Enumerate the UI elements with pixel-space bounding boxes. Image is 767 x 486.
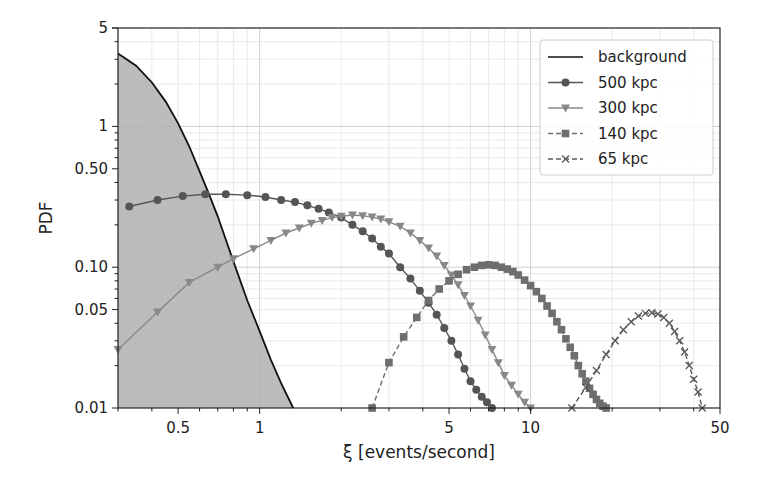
background-fill-area: [118, 53, 293, 408]
circle-marker: [454, 350, 462, 358]
circle-marker: [377, 243, 385, 251]
square-marker: [435, 285, 443, 293]
circle-marker: [440, 324, 448, 332]
square-marker: [400, 333, 408, 341]
square-marker: [562, 130, 570, 138]
x-axis-label: ξ [events/second]: [343, 442, 495, 462]
pdf-chart: 0.51510500.010.050.100.5015 ξ [events/se…: [0, 0, 767, 486]
square-marker: [578, 370, 586, 378]
y-tick-label: 0.50: [75, 160, 108, 178]
legend-label: background: [598, 48, 687, 66]
circle-marker: [125, 202, 133, 210]
circle-marker: [222, 190, 230, 198]
square-marker: [478, 262, 486, 270]
triangle-marker: [454, 281, 463, 289]
circle-marker: [277, 196, 285, 204]
legend-label: 65 kpc: [598, 150, 648, 168]
square-marker: [562, 335, 570, 343]
x-marker: [593, 367, 600, 374]
circle-marker: [416, 287, 424, 295]
y-tick-label: 0.01: [75, 399, 108, 417]
y-tick-label: 1: [98, 117, 108, 135]
y-tick-label: 0.10: [75, 258, 108, 276]
legend-label: 500 kpc: [598, 74, 658, 92]
x-marker: [671, 328, 678, 335]
circle-marker: [303, 201, 311, 209]
square-marker: [454, 271, 462, 279]
x-marker: [681, 348, 688, 355]
legend-label: 140 kpc: [598, 125, 658, 143]
square-marker: [575, 362, 583, 370]
legend: background500 kpc300 kpc140 kpc65 kpc: [540, 40, 713, 175]
circle-marker: [359, 227, 367, 235]
x-tick-label: 5: [444, 419, 454, 437]
circle-marker: [447, 337, 455, 345]
square-marker: [566, 343, 574, 351]
square-marker: [533, 288, 541, 296]
circle-marker: [472, 386, 480, 394]
circle-marker: [154, 196, 162, 204]
square-marker: [445, 277, 453, 285]
circle-marker: [460, 365, 468, 373]
circle-marker: [243, 191, 251, 199]
x-marker: [635, 313, 642, 320]
triangle-marker: [281, 229, 290, 237]
square-marker: [558, 326, 566, 334]
square-marker: [471, 263, 479, 271]
square-marker: [543, 302, 551, 310]
square-marker: [463, 266, 471, 274]
square-marker: [553, 318, 561, 326]
x-marker: [620, 326, 627, 333]
y-tick-label: 0.05: [75, 301, 108, 319]
y-axis-label: PDF: [36, 201, 56, 234]
y-tick-label: 5: [98, 19, 108, 37]
circle-marker: [348, 221, 356, 229]
square-marker: [538, 295, 546, 303]
triangle-marker: [396, 223, 405, 231]
background-fill: [118, 53, 293, 408]
triangle-marker: [249, 245, 258, 253]
circle-marker: [467, 377, 475, 385]
series-140-kpc: [368, 261, 610, 412]
square-marker: [413, 314, 421, 322]
x-tick-label: 50: [710, 419, 729, 437]
circle-marker: [396, 263, 404, 271]
circle-marker: [261, 193, 269, 201]
circle-marker: [201, 190, 209, 198]
triangle-marker: [266, 237, 275, 245]
circle-marker: [562, 79, 570, 87]
square-marker: [571, 352, 579, 360]
circle-marker: [315, 205, 323, 213]
circle-marker: [179, 192, 187, 200]
series-65-kpc: [568, 309, 705, 411]
circle-marker: [368, 234, 376, 242]
circle-marker: [291, 198, 299, 206]
x-tick-label: 1: [255, 419, 265, 437]
square-marker: [425, 297, 433, 305]
circle-marker: [385, 250, 393, 258]
x-marker: [603, 351, 610, 358]
x-tick-label: 10: [521, 419, 540, 437]
square-marker: [548, 310, 556, 318]
circle-marker: [406, 275, 414, 283]
square-marker: [385, 359, 393, 367]
legend-label: 300 kpc: [598, 99, 658, 117]
square-marker: [485, 261, 493, 269]
circle-marker: [433, 311, 441, 319]
x-marker: [628, 318, 635, 325]
x-tick-label: 0.5: [166, 419, 190, 437]
